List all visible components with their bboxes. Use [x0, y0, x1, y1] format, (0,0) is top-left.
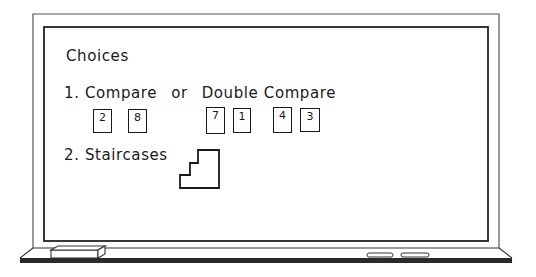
choice-1-connector: or [171, 84, 188, 102]
choice-1-label: 1. CompareorDouble Compare [64, 84, 336, 102]
number-card: 3 [300, 108, 320, 132]
chalkboard-illustration [0, 0, 536, 277]
choice-1-compare: Compare [85, 84, 157, 102]
tray-base [20, 258, 512, 263]
number-card: 4 [273, 107, 292, 133]
eraser-icon [51, 246, 105, 258]
choice-1-double-compare: Double Compare [202, 84, 336, 102]
choice-2-number: 2. [64, 146, 80, 164]
number-card: 8 [128, 109, 147, 133]
choice-1-number: 1. [64, 84, 80, 102]
number-card: 1 [233, 108, 251, 133]
board-title: Choices [66, 47, 129, 65]
chalk-icon [367, 253, 429, 257]
choice-2-label: 2. Staircases [64, 146, 168, 164]
choice-2-staircases: Staircases [85, 146, 168, 164]
number-card: 2 [93, 109, 112, 133]
number-card: 7 [206, 107, 225, 134]
